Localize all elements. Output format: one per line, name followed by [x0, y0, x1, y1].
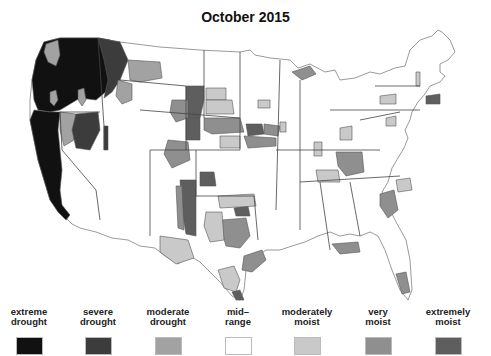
region-ct-extremely-moist — [426, 94, 440, 104]
legend-swatch — [155, 337, 182, 355]
legend-label: drought — [80, 316, 116, 327]
legend-swatch — [365, 337, 392, 355]
region-oh-mod-moist — [340, 126, 352, 140]
region-sd-mod-moist2 — [206, 100, 234, 114]
region-ut-severe — [104, 126, 108, 150]
region-ny-mod-moist — [380, 94, 396, 104]
region-ia-extremely-moist — [246, 124, 264, 136]
legend-label: moist — [435, 316, 460, 327]
legend-swatch — [85, 337, 112, 355]
legend-item-moderately-moist: moderatelymoist — [272, 307, 342, 355]
region-mn-mod-moist — [258, 100, 270, 108]
region-pa-mod-moist — [386, 116, 396, 126]
region-mt-moderate1 — [128, 60, 162, 82]
region-sd-mod-moist — [206, 88, 226, 100]
legend-item-extremely-moist: extremelymoist — [413, 307, 483, 355]
legend-item-mid-range: mid–range — [203, 307, 273, 355]
region-il-mod-moist — [280, 122, 286, 132]
region-mo-very-moist — [244, 136, 276, 148]
legend-label: moist — [294, 316, 319, 327]
region-vt-mod-moist — [416, 72, 420, 86]
legend-swatch — [16, 337, 43, 355]
legend-label: drought — [150, 316, 186, 327]
legend-item-extreme-drought: extremedrought — [0, 307, 64, 355]
region-nc-mod-moist — [396, 178, 412, 192]
legend: extremedrought severedrought moderatedro… — [0, 307, 491, 356]
region-ne-very-moist — [204, 118, 244, 134]
us-drought-map — [0, 0, 491, 310]
region-nm-extremely-moist2 — [200, 172, 216, 186]
legend-item-very-moist: verymoist — [343, 307, 413, 355]
region-ok-extremely-moist — [234, 206, 250, 216]
region-co-extremely-moist — [186, 118, 200, 140]
region-in-mod-moist — [314, 142, 322, 156]
legend-item-severe-drought: severedrought — [63, 307, 133, 355]
legend-swatch — [225, 337, 252, 355]
legend-label: range — [225, 316, 251, 327]
region-wy-extremely-moist — [186, 86, 204, 118]
legend-swatch — [435, 337, 462, 355]
region-fl-panhandle-very-moist — [332, 242, 360, 254]
legend-label: moist — [365, 316, 390, 327]
legend-label: drought — [11, 316, 47, 327]
legend-item-moderate-drought: moderatedrought — [133, 307, 203, 355]
region-ks-mod-moist — [220, 136, 240, 148]
region-ia-very-moist — [264, 124, 280, 136]
legend-swatch — [294, 337, 321, 355]
